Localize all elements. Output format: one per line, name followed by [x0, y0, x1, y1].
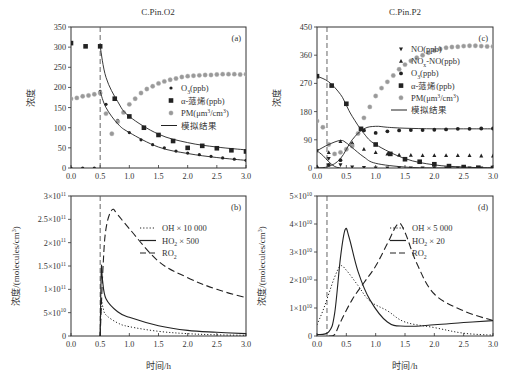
chart-title: C.Pin.P2	[389, 7, 421, 17]
legend-label: PM(μm3/cm3)	[181, 108, 229, 118]
data-point	[110, 132, 114, 136]
data-point	[226, 72, 230, 76]
chart-title: C.Pin.O2	[141, 7, 175, 17]
y-axis-label: 浓度	[271, 89, 282, 107]
x-tick-label: 1.0	[124, 340, 134, 349]
data-point	[185, 74, 189, 78]
data-point	[180, 75, 184, 79]
x-tick-label: 1.5	[153, 172, 163, 181]
data-point	[491, 44, 495, 48]
data-point	[461, 44, 465, 48]
x-tick-label: 2.0	[183, 172, 193, 181]
x-tick-label: 2.0	[183, 340, 193, 349]
data-point	[399, 59, 403, 63]
data-point	[468, 153, 472, 157]
data-point	[69, 97, 73, 101]
data-point	[385, 80, 389, 84]
x-tick-label: 1.0	[124, 172, 134, 181]
legend: OH × 5 000HO2 × 20RO2	[390, 223, 452, 260]
data-point	[174, 76, 178, 80]
data-point	[145, 87, 149, 91]
data-point	[444, 45, 448, 49]
data-point	[362, 147, 366, 151]
x-tick-label: 2.0	[429, 172, 439, 181]
plot-frame	[317, 196, 493, 336]
tick-label: 5×1010	[290, 191, 313, 202]
tick-label: 300	[54, 43, 66, 52]
tick-label: 0	[308, 332, 312, 341]
plot-area	[315, 44, 496, 171]
data-point	[197, 73, 201, 77]
data-point	[338, 150, 342, 154]
panel-label: (b)	[231, 202, 241, 212]
legend: OH × 10 000HO2 × 500RO2	[140, 223, 207, 260]
data-point	[168, 78, 172, 82]
tick-label: 180	[300, 108, 312, 117]
data-point	[373, 94, 377, 98]
data-point	[75, 96, 79, 100]
data-point	[444, 153, 448, 157]
data-point	[362, 116, 366, 120]
panel-b: 0.00.51.01.52.02.53.005×10101×10111.5×10…	[10, 191, 251, 372]
data-point	[397, 129, 401, 133]
data-point	[321, 125, 325, 129]
y-axis-label: 浓度/(molecules/cm3)	[10, 226, 21, 305]
x-tick-label: 1.5	[400, 172, 410, 181]
legend-label: HO2 × 500	[162, 236, 199, 248]
data-point	[162, 79, 166, 83]
x-tick-label: 0.5	[341, 340, 351, 349]
tick-label: 0	[62, 332, 66, 341]
tick-label: 2.5×1011	[38, 214, 67, 225]
data-point	[409, 153, 413, 157]
tick-label: 250	[54, 63, 66, 72]
tick-label: 350	[54, 23, 66, 32]
plot-frame	[71, 196, 246, 336]
x-tick-label: 0.0	[312, 340, 322, 349]
legend: O3(ppb)α-蒎烯(ppb)PM(μm3/cm3)模拟结果	[161, 83, 229, 131]
legend-label: 模拟结果	[411, 105, 447, 115]
data-point	[185, 146, 190, 151]
data-point	[467, 44, 471, 48]
x-tick-label: 3.0	[488, 172, 498, 181]
tick-label: 1×1011	[44, 284, 66, 295]
x-tick-label: 1.5	[153, 340, 163, 349]
tick-label: 0	[308, 164, 312, 173]
data-point	[491, 154, 495, 158]
data-point	[69, 41, 74, 46]
legend-label: 模拟结果	[181, 121, 217, 131]
data-point	[315, 119, 319, 123]
y-axis-label: 浓度/(molecules/cm3)	[256, 226, 267, 305]
panel-d: 0.00.51.01.52.02.53.001×10102×10103×1010…	[256, 191, 498, 372]
x-tick-label: 0.0	[66, 340, 76, 349]
series-line	[317, 228, 493, 334]
data-point	[338, 163, 342, 167]
x-tick-label: 2.5	[212, 340, 222, 349]
x-tick-label: 0.5	[341, 172, 351, 181]
tick-label: 2×1010	[290, 275, 313, 286]
data-point	[209, 73, 213, 77]
data-point	[332, 152, 336, 156]
data-point	[169, 98, 174, 103]
data-point	[473, 44, 477, 48]
data-point	[444, 128, 448, 132]
x-tick-label: 0.0	[66, 172, 76, 181]
data-point	[150, 84, 154, 88]
series-line	[317, 126, 493, 168]
data-point	[83, 44, 88, 49]
tick-label: 3×1011	[44, 191, 66, 202]
data-point	[485, 44, 489, 48]
panel-a: C.Pin.O20.00.51.01.52.02.53.005010015020…	[25, 7, 251, 181]
x-tick-label: 1.5	[400, 340, 410, 349]
data-point	[399, 72, 403, 76]
legend-label: O3(ppb)	[181, 83, 209, 95]
tick-label: 3×1010	[290, 247, 313, 258]
data-point	[127, 102, 131, 106]
legend-label: NOx-NO(ppb)	[411, 56, 460, 68]
legend-label: α-蒎烯(ppb)	[411, 81, 455, 91]
tick-label: 1×1010	[290, 303, 313, 314]
tick-label: 5×1010	[44, 307, 67, 318]
data-point	[191, 74, 195, 78]
legend-label: RO2	[412, 248, 427, 260]
data-point	[374, 150, 378, 154]
x-tick-label: 0.5	[95, 340, 105, 349]
